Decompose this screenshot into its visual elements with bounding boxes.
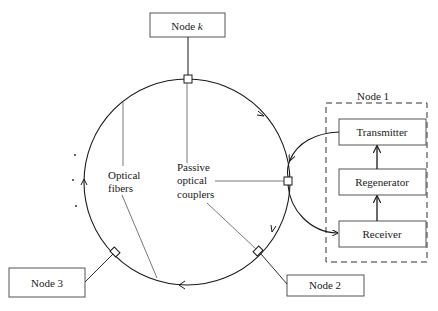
passive-couplers-label-line3: couplers	[177, 188, 214, 200]
passive-couplers-annotation: Passive optical couplers	[177, 83, 284, 249]
transmitter-label: Transmitter	[357, 126, 408, 138]
coupler-to-rx-link	[288, 185, 337, 233]
node-3: Node 3	[9, 254, 113, 297]
node-k: Node k	[150, 13, 225, 75]
node-3-label: Node 3	[31, 277, 64, 289]
regenerator-label: Regenerator	[355, 176, 409, 188]
coupler-right	[284, 177, 292, 185]
node-1-label: Node 1	[357, 90, 389, 102]
node-2-label: Node 2	[309, 279, 341, 291]
tx-to-coupler-link	[290, 132, 339, 160]
passive-couplers-label-line1: Passive	[177, 161, 210, 173]
node-k-label: Node k	[171, 20, 204, 32]
optical-fibers-label-line2: fibers	[108, 182, 133, 194]
optical-fibers-label-line1: Optical	[108, 169, 140, 181]
ring-network-diagram: Node k Node 3 Node 2 Node 1 Transmitter …	[0, 0, 438, 311]
node-2: Node 2	[261, 254, 364, 296]
coupler-top	[184, 75, 192, 83]
node-1: Node 1 Transmitter Regenerator Receiver	[287, 90, 427, 262]
passive-couplers-label-line2: optical	[177, 174, 207, 186]
receiver-label: Receiver	[362, 228, 401, 240]
ellipsis-dots	[72, 154, 77, 207]
ring-arrow-right-low	[271, 225, 276, 232]
